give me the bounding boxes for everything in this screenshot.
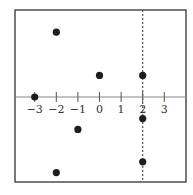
x-axis-ticks: −3−2−10123 (27, 92, 168, 116)
data-point (139, 115, 146, 122)
data-point (31, 93, 38, 100)
data-point (96, 72, 103, 79)
x-tick-label: −3 (27, 103, 43, 116)
scatter-plot: −3−2−10123 (0, 0, 193, 195)
x-tick-label: −1 (70, 103, 86, 116)
data-point (53, 29, 60, 36)
plot-frame (15, 10, 186, 182)
x-tick-label: 0 (96, 103, 103, 116)
data-point (53, 169, 60, 176)
data-point (139, 72, 146, 79)
x-tick-label: 3 (161, 103, 168, 116)
x-tick-label: −2 (48, 103, 64, 116)
x-tick-label: 1 (118, 103, 125, 116)
data-point (74, 126, 81, 133)
data-point (139, 158, 146, 165)
